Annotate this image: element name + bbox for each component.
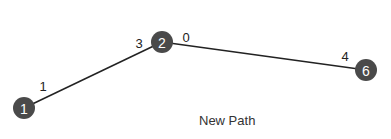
node-2[interactable]: 2	[151, 31, 173, 53]
node-1-label: 1	[20, 101, 28, 117]
port-label-3: 3	[135, 36, 142, 51]
edge-1-2	[24, 42, 162, 108]
diagram-caption: New Path	[199, 113, 255, 128]
port-label-0: 0	[182, 30, 189, 45]
node-2-label: 2	[158, 35, 166, 51]
path-diagram: 1 3 0 4 1 2 6 New Path	[0, 0, 391, 139]
port-label-4: 4	[341, 49, 348, 64]
node-6-label: 6	[362, 63, 370, 79]
node-1[interactable]: 1	[13, 97, 35, 119]
port-label-1: 1	[39, 79, 46, 94]
edge-2-6	[162, 42, 366, 70]
node-6[interactable]: 6	[355, 59, 377, 81]
